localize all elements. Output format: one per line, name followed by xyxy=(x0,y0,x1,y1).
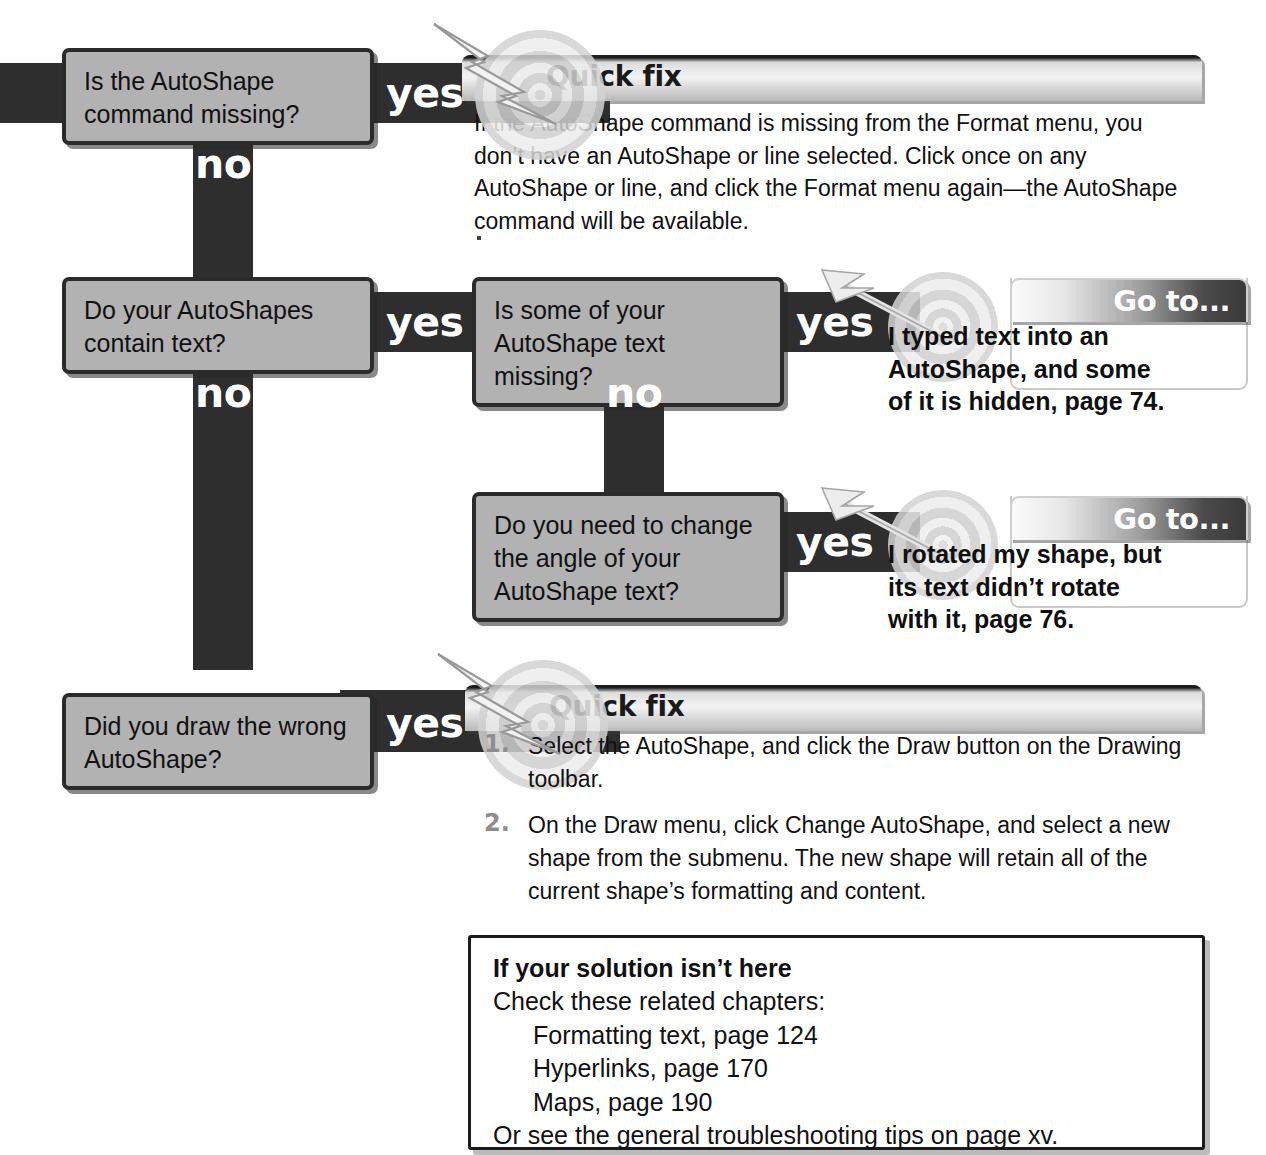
question-2-line-2: contain text? xyxy=(84,327,354,360)
question-1-line-2: command missing? xyxy=(84,98,354,131)
connector-no-spine-2 xyxy=(193,350,253,670)
lightning-bolt-icon-2 xyxy=(432,650,572,760)
solution-chapter-item[interactable]: Maps, page 190 xyxy=(493,1086,1182,1120)
goto-2-line-1: I rotated my shape, but xyxy=(888,538,1218,571)
flowchart-canvas: Is the AutoShape command missing? yes no… xyxy=(0,0,1266,1155)
goto-2-header-bar: Go to... xyxy=(1010,496,1248,540)
stray-dot-mark xyxy=(477,236,481,240)
goto-panel-1: Go to... xyxy=(1010,278,1248,322)
question-4-line-2: the angle of your xyxy=(494,542,764,575)
quickfix-2-steps: 1. Select the AutoShape, and click the D… xyxy=(484,730,1184,921)
solution-box-heading: If your solution isn’t here xyxy=(493,954,1182,983)
solution-box-footer: Or see the general troubleshooting tips … xyxy=(493,1119,1182,1153)
step-item: 1. Select the AutoShape, and click the D… xyxy=(484,730,1184,795)
step-2-text: On the Draw menu, click Change AutoShape… xyxy=(528,812,1170,903)
goto-2-line-2: its text didn’t rotate xyxy=(888,571,1218,604)
question-box-4[interactable]: Do you need to change the angle of your … xyxy=(472,492,784,622)
question-box-5[interactable]: Did you draw the wrong AutoShape? xyxy=(62,693,374,790)
question-5-line-1: Did you draw the wrong xyxy=(84,710,354,743)
question-1-line-1: Is the AutoShape xyxy=(84,65,354,98)
goto-1-title: Go to... xyxy=(1113,284,1230,318)
goto-1-line-1: I typed text into an xyxy=(888,320,1218,353)
step-item: 2. On the Draw menu, click Change AutoSh… xyxy=(484,809,1184,907)
solution-chapter-item[interactable]: Hyperlinks, page 170 xyxy=(493,1052,1182,1086)
question-2-line-1: Do your AutoShapes xyxy=(84,294,354,327)
step-2-number: 2. xyxy=(484,809,510,837)
goto-panel-2: Go to... xyxy=(1010,496,1248,540)
goto-2-title: Go to... xyxy=(1113,502,1230,536)
question-box-2[interactable]: Do your AutoShapes contain text? xyxy=(62,277,374,374)
question-box-1[interactable]: Is the AutoShape command missing? xyxy=(62,48,374,145)
solution-chapter-item[interactable]: Formatting text, page 124 xyxy=(493,1019,1182,1053)
goto-1-line-2: AutoShape, and some xyxy=(888,353,1218,386)
goto-1-header-bar: Go to... xyxy=(1010,278,1248,322)
solution-box-intro: Check these related chapters: xyxy=(493,985,1182,1019)
solution-box: If your solution isn’t here Check these … xyxy=(468,935,1205,1150)
question-5-line-2: AutoShape? xyxy=(84,743,354,776)
step-1-text: Select the AutoShape, and click the Draw… xyxy=(528,733,1181,792)
goto-2-line-3: with it, page 76. xyxy=(888,603,1218,636)
goto-2-body: I rotated my shape, but its text didn’t … xyxy=(888,536,1218,636)
goto-1-line-3: of it is hidden, page 74. xyxy=(888,385,1218,418)
goto-1-body: I typed text into an AutoShape, and some… xyxy=(888,318,1218,418)
question-4-line-1: Do you need to change xyxy=(494,509,764,542)
question-3-line-1: Is some of your xyxy=(494,294,764,327)
question-box-3[interactable]: Is some of your AutoShape text missing? xyxy=(472,277,784,407)
question-4-line-3: AutoShape text? xyxy=(494,575,764,608)
question-3-line-2: AutoShape text missing? xyxy=(494,327,764,393)
lightning-bolt-icon xyxy=(428,20,568,130)
